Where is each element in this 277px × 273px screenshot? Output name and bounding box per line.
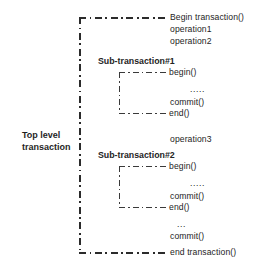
top-level-transaction-label-line1: Top level bbox=[22, 130, 71, 142]
sub-transaction-1-begin-text: begin() bbox=[169, 67, 196, 78]
nested-transaction-diagram: Top level transaction Begin transaction(… bbox=[0, 0, 277, 273]
top-level-vertical-bracket-line bbox=[79, 17, 81, 253]
sub-transaction-1-top-bracket-line bbox=[119, 72, 167, 73]
sub-transaction-2-vertical-bracket-line bbox=[119, 166, 120, 208]
sub-transaction-2-top-bracket-line bbox=[119, 166, 167, 167]
begin-transaction-text: Begin transaction() bbox=[170, 12, 244, 23]
operation1-text: operation1 bbox=[170, 24, 212, 35]
sub-transaction-2-bottom-bracket-line bbox=[119, 207, 167, 208]
operation2-text: operation2 bbox=[170, 36, 212, 47]
top-level-transaction-label: Top level transaction bbox=[22, 130, 71, 153]
sub-transaction-2-ellipsis-text: ..... bbox=[190, 178, 205, 189]
sub-transaction-2-begin-text: begin() bbox=[169, 161, 196, 172]
sub-transaction-1-vertical-bracket-line bbox=[119, 72, 120, 114]
top-level-ellipsis-text: ... bbox=[177, 219, 186, 230]
top-level-transaction-label-line2: transaction bbox=[22, 142, 71, 154]
sub-transaction-1-title: Sub-transaction#1 bbox=[98, 56, 175, 67]
top-level-commit-text: commit() bbox=[170, 231, 204, 242]
sub-transaction-1-bottom-bracket-line bbox=[119, 113, 167, 114]
sub-transaction-2-commit-text: commit() bbox=[170, 191, 204, 202]
sub-transaction-1-commit-text: commit() bbox=[170, 97, 204, 108]
sub-transaction-2-end-text: end() bbox=[169, 202, 190, 213]
sub-transaction-2-title: Sub-transaction#2 bbox=[98, 150, 175, 161]
top-level-bottom-bracket-line bbox=[79, 252, 168, 254]
end-transaction-text: end transaction() bbox=[170, 247, 236, 258]
operation3-text: operation3 bbox=[170, 134, 212, 145]
sub-transaction-1-ellipsis-text: ..... bbox=[190, 84, 205, 95]
sub-transaction-1-end-text: end() bbox=[169, 108, 190, 119]
top-level-top-bracket-line bbox=[79, 17, 168, 19]
